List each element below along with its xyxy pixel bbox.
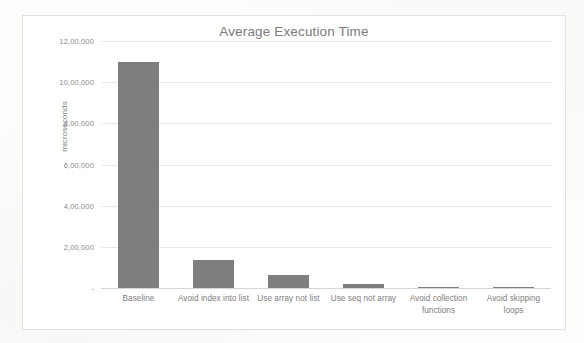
bar-slot — [401, 41, 476, 288]
y-axis-tick-label: 8,00,000 — [64, 119, 94, 128]
y-axis-tick-label: - — [91, 284, 94, 293]
bar[interactable] — [268, 275, 309, 288]
x-axis-category-label: Avoid collection functions — [401, 293, 476, 316]
chart-container: Average Execution Time microseconds -2,0… — [22, 15, 566, 330]
y-axis-tick-label: 12,00,000 — [59, 37, 94, 46]
bar[interactable] — [118, 62, 159, 288]
x-axis-line — [101, 288, 551, 289]
bars-group — [101, 41, 551, 288]
y-axis-tick-label: 10,00,000 — [59, 78, 94, 87]
bar-slot — [176, 41, 251, 288]
x-axis-category-label: Avoid index into list — [176, 293, 251, 316]
x-axis-category-label: Baseline — [101, 293, 176, 316]
bar[interactable] — [193, 260, 234, 288]
bar-slot — [326, 41, 401, 288]
x-axis-labels: BaselineAvoid index into listUse array n… — [101, 293, 551, 316]
y-axis-tick-label: 2,00,000 — [64, 242, 94, 251]
chart-title: Average Execution Time — [23, 24, 565, 39]
y-axis-tick-label: 4,00,000 — [64, 201, 94, 210]
x-axis-category-label: Use array not list — [251, 293, 326, 316]
bar-slot — [251, 41, 326, 288]
bar-slot — [101, 41, 176, 288]
y-axis-tick-label: 6,00,000 — [64, 160, 94, 169]
x-axis-category-label: Use seq not array — [326, 293, 401, 316]
x-axis-category-label: Avoid skipping loops — [476, 293, 551, 316]
plot-area: -2,00,0004,00,0006,00,0008,00,00010,00,0… — [101, 41, 551, 288]
bar-slot — [476, 41, 551, 288]
